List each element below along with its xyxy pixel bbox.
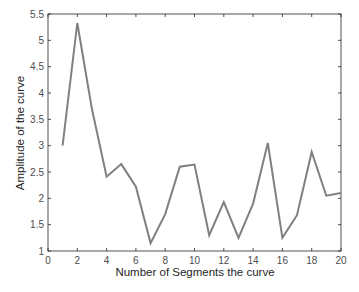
x-tick-label: 8 <box>162 255 168 266</box>
y-tick-label: 5.5 <box>30 9 44 20</box>
x-tick-label: 2 <box>75 255 81 266</box>
y-tick-label: 3 <box>38 140 44 151</box>
y-tick-label: 2.5 <box>30 167 44 178</box>
y-tick-label: 1.5 <box>30 219 44 230</box>
x-tick-label: 16 <box>277 255 289 266</box>
line-chart: 02468101214161820 11.522.533.544.555.5 N… <box>0 0 359 292</box>
x-tick-label: 10 <box>189 255 201 266</box>
chart-canvas: 02468101214161820 11.522.533.544.555.5 N… <box>0 0 359 292</box>
y-axis-label: Amplitude of the curve <box>14 76 26 190</box>
x-tick-label: 0 <box>45 255 51 266</box>
y-tick-label: 2 <box>38 193 44 204</box>
y-tick-label: 1 <box>38 246 44 257</box>
x-tick-label: 12 <box>218 255 230 266</box>
y-tick-label: 4.5 <box>30 61 44 72</box>
y-tick-label: 5 <box>38 35 44 46</box>
y-tick-label: 3.5 <box>30 114 44 125</box>
x-axis-label: Number of Segments the curve <box>115 266 274 278</box>
x-tick-label: 4 <box>104 255 110 266</box>
x-tick-label: 14 <box>248 255 260 266</box>
x-tick-label: 20 <box>335 255 347 266</box>
y-tick-label: 4 <box>38 88 44 99</box>
x-tick-label: 18 <box>306 255 318 266</box>
x-tick-label: 6 <box>133 255 139 266</box>
